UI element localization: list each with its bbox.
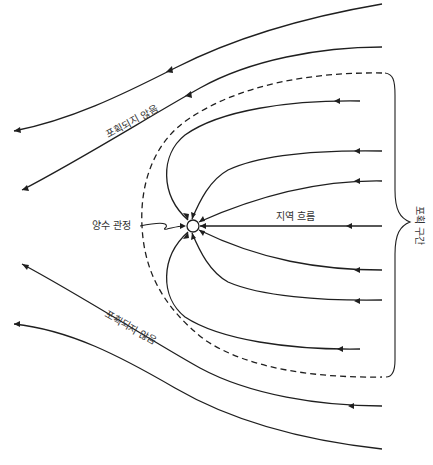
arrowhead [14,321,20,327]
label-capture-zone: 포획 구간 [414,206,425,245]
well-label-leader [140,223,184,229]
streamline-captured-2 [192,151,382,219]
arrowhead [346,223,352,229]
arrowhead [22,185,29,191]
pumping-well-icon [187,220,199,232]
arrowhead [348,403,354,409]
streamline-uncaptured-4 [14,324,382,449]
arrowhead [354,267,360,273]
arrowhead [334,98,340,104]
streamline-uncaptured-2 [22,47,382,190]
arrowhead [199,216,205,222]
arrowhead [166,66,173,73]
streamline-captured-7 [167,232,360,349]
arrowhead [337,346,343,352]
capture-zone-diagram: 포획되지 않음 포획되지 않음 양수 관정 지역 흐름 포획 구간 [0,0,433,465]
uncaptured-streamlines-upper [14,4,382,191]
arrowhead [185,91,192,98]
arrowhead [354,148,360,154]
label-not-captured-lower: 포획되지 않음 [103,308,158,346]
uncaptured-streamlines-lower [14,264,382,449]
arrowhead [200,223,206,229]
arrowhead [22,264,29,270]
arrowhead [14,127,21,133]
streamline-uncaptured-3 [22,264,382,406]
label-regional-flow: 지역 흐름 [276,211,315,222]
streamline-captured-5 [199,230,382,270]
arrowhead [354,298,360,304]
streamline-uncaptured-1 [14,4,382,131]
streamline-captured-1 [167,101,360,220]
capture-zone-boundary [142,73,382,377]
arrowhead [354,178,360,184]
capture-zone-bracket [385,73,410,377]
arrowhead [180,223,186,229]
label-not-captured-upper: 포획되지 않음 [104,103,160,140]
arrowhead [199,230,205,236]
label-pumping-well: 양수 관정 [92,220,131,231]
streamline-captured-6 [192,233,382,300]
